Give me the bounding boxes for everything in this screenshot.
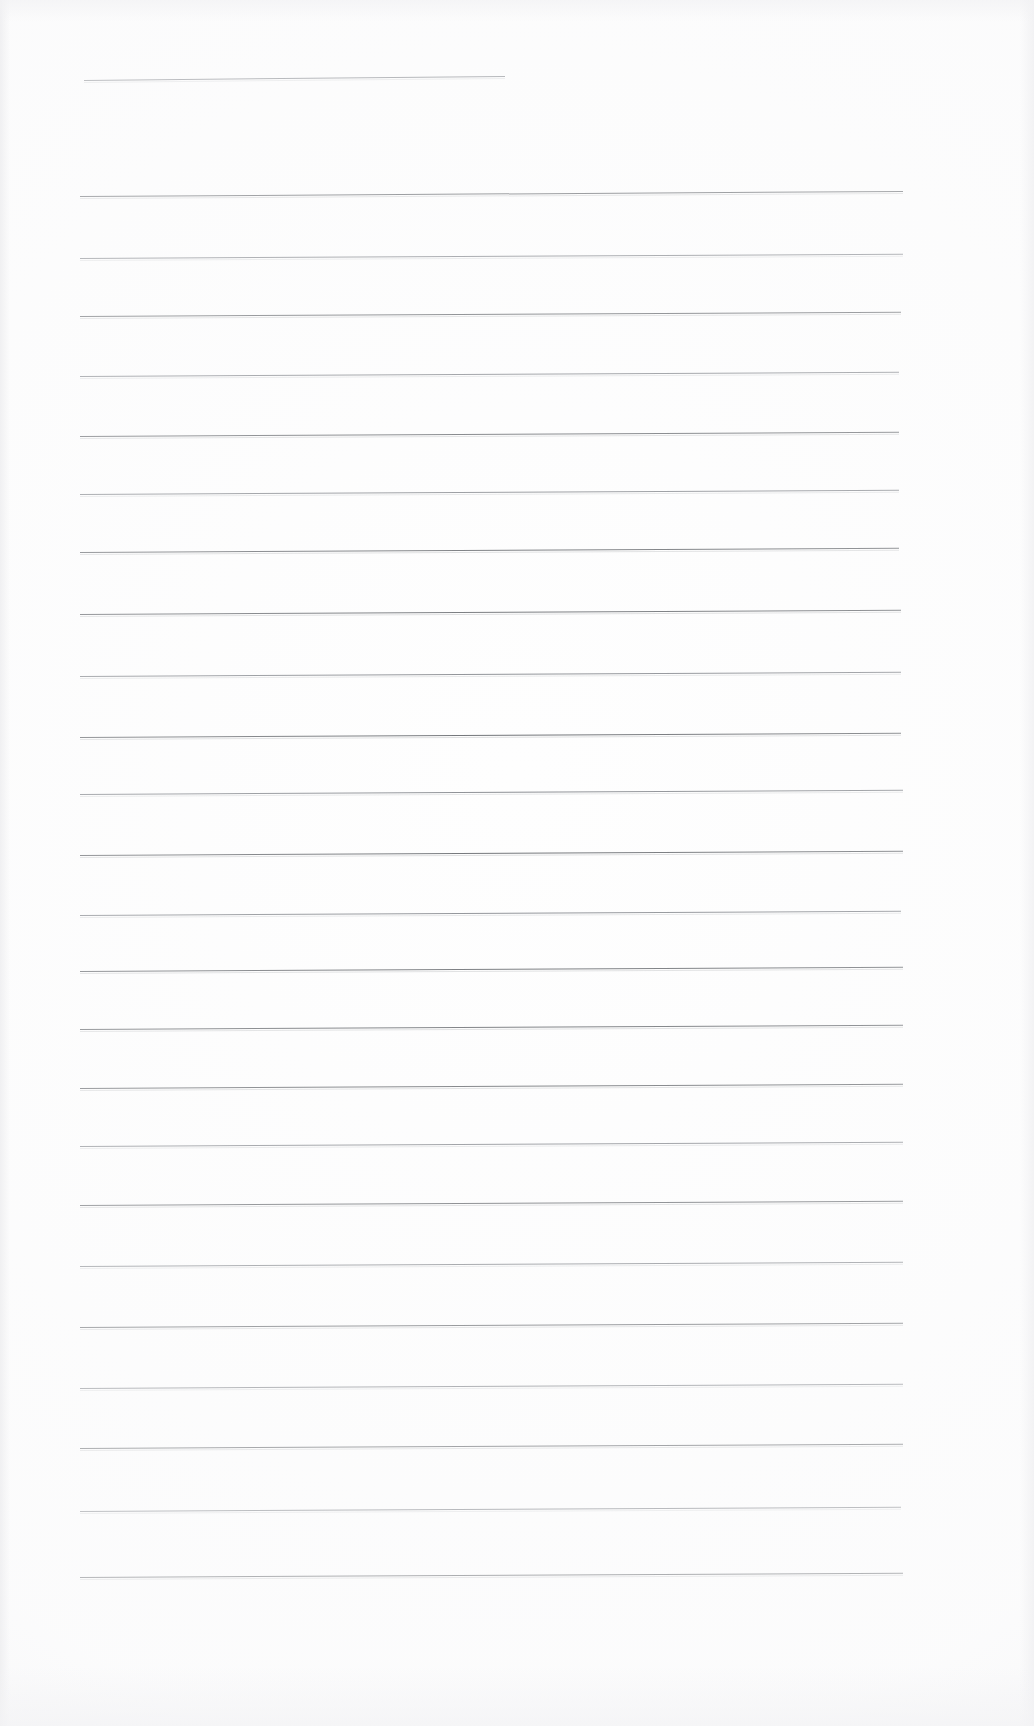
scanned-page bbox=[0, 0, 1034, 1726]
